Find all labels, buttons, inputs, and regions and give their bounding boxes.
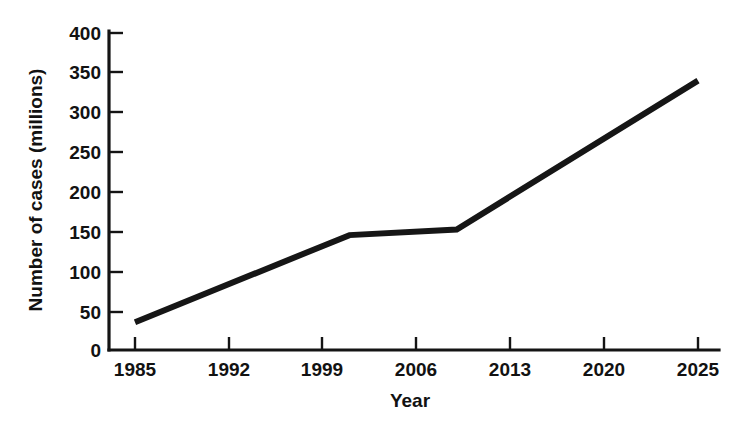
y-axis-title: Number of cases (millions) [25,69,46,312]
x-tick-label-1999: 1999 [301,359,343,380]
x-tick-label-1992: 1992 [208,359,250,380]
y-tick-label-250: 250 [69,142,101,163]
line-chart: 400 350 300 250 200 150 100 50 0 1985 19… [0,0,744,432]
chart-page: 400 350 300 250 200 150 100 50 0 1985 19… [0,0,744,432]
x-axis-title: Year [390,390,431,411]
y-tick-label-200: 200 [69,182,101,203]
y-tick-label-50: 50 [80,302,101,323]
x-tick-label-2025: 2025 [677,359,720,380]
y-tick-label-350: 350 [69,62,101,83]
x-tick-label-2006: 2006 [395,359,437,380]
x-tick-label-1985: 1985 [114,359,157,380]
y-tick-label-0: 0 [90,340,101,361]
y-tick-label-100: 100 [69,262,101,283]
y-tick-label-150: 150 [69,222,101,243]
x-tick-label-2020: 2020 [583,359,625,380]
y-tick-label-300: 300 [69,102,101,123]
chart-background [0,0,744,432]
x-tick-label-2013: 2013 [489,359,531,380]
y-tick-label-400: 400 [69,23,101,44]
